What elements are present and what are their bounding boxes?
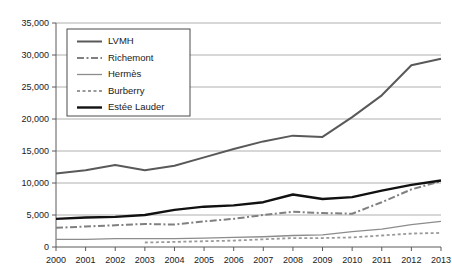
x-tick-label: 2009 xyxy=(313,255,333,265)
x-tick-label: 2001 xyxy=(76,255,96,265)
y-tick-label: 0 xyxy=(44,242,49,252)
y-tick-labels: 05,00010,00015,00020,00025,00030,00035,0… xyxy=(21,18,49,252)
chart-legend: LVMHRichemontHermèsBurberryEstée Lauder xyxy=(67,29,190,116)
x-axis xyxy=(56,247,441,251)
line-chart: 05,00010,00015,00020,00025,00030,00035,0… xyxy=(0,0,452,275)
x-tick-label: 2013 xyxy=(431,255,451,265)
series-line-est-e-lauder xyxy=(56,180,441,218)
y-tick-label: 35,000 xyxy=(21,18,49,28)
y-axis xyxy=(52,23,56,247)
legend-label-herm-s: Hermès xyxy=(108,68,142,79)
x-tick-label: 2012 xyxy=(401,255,421,265)
y-tick-label: 10,000 xyxy=(21,178,49,188)
x-tick-label: 2000 xyxy=(46,255,66,265)
legend-label-burberry: Burberry xyxy=(108,85,145,96)
legend-label-est-e-lauder: Estée Lauder xyxy=(108,101,165,112)
chart-plot-area: 05,00010,00015,00020,00025,00030,00035,0… xyxy=(0,0,452,275)
series-line-herm-s xyxy=(56,221,441,239)
x-tick-label: 2005 xyxy=(194,255,214,265)
y-tick-label: 15,000 xyxy=(21,146,49,156)
x-tick-label: 2007 xyxy=(253,255,273,265)
y-tick-label: 20,000 xyxy=(21,114,49,124)
x-tick-label: 2004 xyxy=(164,255,184,265)
y-tick-label: 30,000 xyxy=(21,50,49,60)
x-tick-label: 2003 xyxy=(135,255,155,265)
legend-label-lvmh: LVMH xyxy=(108,35,134,46)
y-tick-label: 25,000 xyxy=(21,82,49,92)
y-tick-label: 5,000 xyxy=(26,210,49,220)
legend-label-richemont: Richemont xyxy=(108,52,154,63)
x-tick-label: 2008 xyxy=(283,255,303,265)
x-tick-label: 2011 xyxy=(372,255,391,265)
x-tick-label: 2002 xyxy=(105,255,125,265)
x-tick-labels: 2000200120022003200420052006200720082009… xyxy=(46,255,451,265)
x-tick-label: 2010 xyxy=(342,255,362,265)
x-tick-label: 2006 xyxy=(224,255,244,265)
